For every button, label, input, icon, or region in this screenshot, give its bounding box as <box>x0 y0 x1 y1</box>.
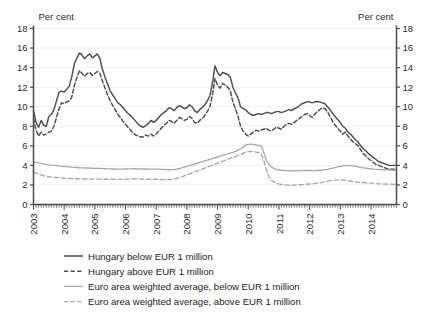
y-axis-ticks-right: 024681012141618 <box>397 23 414 210</box>
x-tick-label-2007: 2007 <box>151 214 162 235</box>
chart-container: 024681012141618 024681012141618 20032004… <box>0 0 436 312</box>
y-tick-label-left: 6 <box>22 140 27 151</box>
y-tick-label-right: 18 <box>403 23 414 34</box>
y-tick-label-left: 0 <box>22 199 27 210</box>
series-line-2 <box>34 144 397 171</box>
y-tick-label-right: 8 <box>403 121 408 132</box>
x-tick-label-2003: 2003 <box>28 214 39 235</box>
grid-lines <box>34 29 397 185</box>
x-tick-label-2004: 2004 <box>59 214 70 235</box>
legend-label-2: Euro area weighted average, below EUR 1 … <box>88 281 300 292</box>
y-axis-label-left: Per cent <box>39 11 75 22</box>
x-tick-label-2009: 2009 <box>212 214 223 235</box>
y-tick-label-right: 2 <box>403 179 408 190</box>
legend-label-1: Hungary above EUR 1 million <box>88 266 214 277</box>
x-axis-ticks: 2003200420052006200720082009201020112012… <box>28 205 396 235</box>
series-line-1 <box>34 71 397 171</box>
series-line-0 <box>34 53 397 165</box>
y-tick-label-right: 0 <box>403 199 408 210</box>
x-tick-label-2006: 2006 <box>120 214 131 235</box>
y-tick-label-right: 14 <box>403 62 414 73</box>
y-tick-label-right: 16 <box>403 42 414 53</box>
x-tick-label-2012: 2012 <box>304 214 315 235</box>
y-tick-label-left: 10 <box>17 101 28 112</box>
x-tick-label-2014: 2014 <box>366 214 377 235</box>
x-tick-label-2010: 2010 <box>243 214 254 235</box>
y-tick-label-left: 2 <box>22 179 27 190</box>
legend-label-0: Hungary below EUR 1 million <box>88 251 213 262</box>
axes <box>34 26 397 205</box>
legend: Hungary below EUR 1 millionHungary above… <box>64 251 301 308</box>
x-tick-label-2011: 2011 <box>274 214 285 234</box>
y-tick-label-right: 10 <box>403 101 414 112</box>
x-tick-label-2005: 2005 <box>89 214 100 235</box>
y-tick-label-right: 6 <box>403 140 408 151</box>
y-axis-ticks-left: 024681012141618 <box>17 23 34 210</box>
y-tick-label-right: 12 <box>403 82 414 93</box>
legend-label-3: Euro area weighted average, above EUR 1 … <box>88 296 301 307</box>
y-tick-label-left: 8 <box>22 121 27 132</box>
y-tick-label-right: 4 <box>403 160 408 171</box>
y-tick-label-left: 14 <box>17 62 28 73</box>
y-tick-label-left: 18 <box>17 23 28 34</box>
x-tick-label-2008: 2008 <box>181 214 192 235</box>
y-tick-label-left: 4 <box>22 160 27 171</box>
line-chart: 024681012141618 024681012141618 20032004… <box>0 0 436 312</box>
x-tick-label-2013: 2013 <box>335 214 346 235</box>
y-tick-label-left: 12 <box>17 82 28 93</box>
y-tick-label-left: 16 <box>17 42 28 53</box>
y-axis-label-right: Per cent <box>358 11 394 22</box>
